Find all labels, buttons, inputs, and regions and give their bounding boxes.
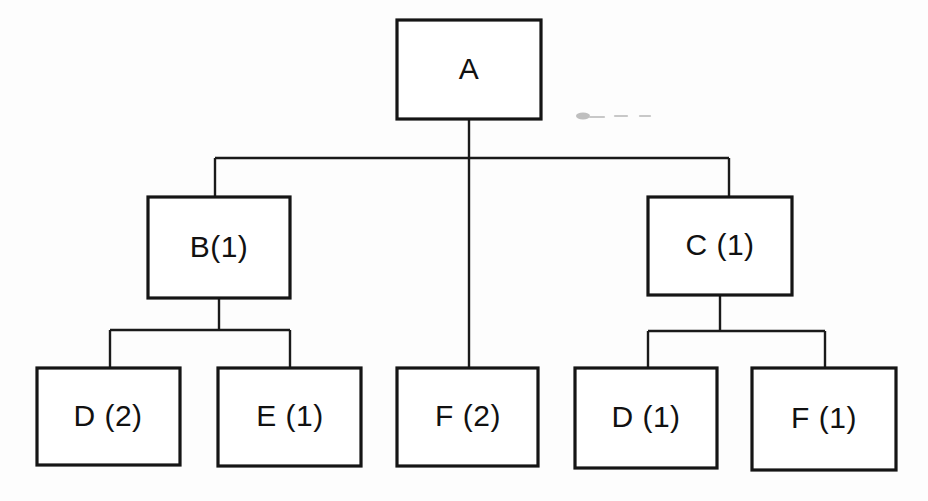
node-label-f1: F (1) [791, 401, 857, 434]
connector-group-b [110, 298, 290, 368]
node-b[interactable]: B(1) [148, 197, 290, 298]
scan-artifact [576, 113, 650, 120]
node-c[interactable]: C (1) [648, 197, 792, 295]
hierarchy-diagram: A B(1) C (1) D (2) E (1) F (2) D (1) [0, 0, 928, 501]
node-e1[interactable]: E (1) [218, 368, 361, 466]
node-label-b: B(1) [190, 230, 249, 263]
node-f2[interactable]: F (2) [397, 368, 538, 466]
node-label-a: A [459, 52, 480, 85]
node-label-f2: F (2) [435, 399, 501, 432]
node-d2[interactable]: D (2) [37, 368, 180, 465]
node-d1[interactable]: D (1) [575, 368, 717, 468]
node-label-d2: D (2) [73, 399, 142, 432]
node-label-e1: E (1) [256, 399, 324, 432]
node-label-c: C (1) [685, 228, 754, 261]
scan-artifact-blob [576, 113, 590, 120]
node-f1[interactable]: F (1) [752, 368, 896, 470]
diagram-canvas: A B(1) C (1) D (2) E (1) F (2) D (1) [0, 0, 928, 501]
node-a[interactable]: A [397, 20, 541, 119]
connector-group-c [648, 295, 825, 368]
node-label-d1: D (1) [611, 400, 680, 433]
